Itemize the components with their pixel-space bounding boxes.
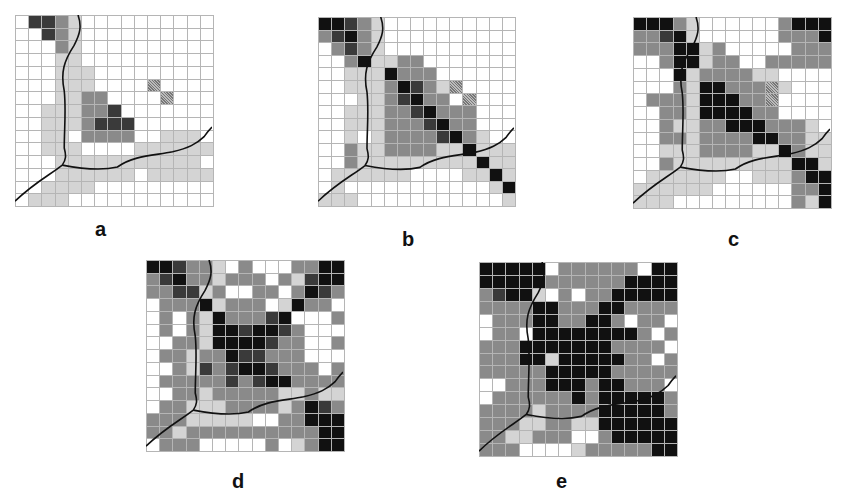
grid-cell	[122, 16, 134, 28]
grid-cell	[506, 366, 518, 378]
grid-cell	[226, 363, 238, 375]
grid-cell	[201, 169, 213, 181]
grid-cell	[819, 18, 831, 30]
grid-cell	[647, 43, 659, 55]
grid-cell	[726, 43, 738, 55]
grid-cell	[674, 120, 686, 132]
grid-cell	[520, 276, 532, 288]
grid-cell	[82, 131, 94, 143]
grid-cell	[665, 302, 677, 314]
grid-cell	[726, 107, 738, 119]
grid-cell	[660, 184, 672, 196]
grid-cell	[187, 414, 199, 426]
grid-cell	[42, 194, 54, 206]
grid-cell	[740, 133, 752, 145]
grid-cell	[135, 131, 147, 143]
grid-cell	[493, 354, 505, 366]
grid-cell	[372, 194, 384, 206]
grid-cell	[713, 133, 725, 145]
grid-cell	[160, 401, 172, 413]
grid-cell	[792, 184, 804, 196]
grid-cell	[665, 276, 677, 288]
grid-cell	[332, 68, 344, 80]
grid-cell	[42, 131, 54, 143]
grid-cell	[213, 376, 225, 388]
grid-cell	[188, 67, 200, 79]
grid-cell	[559, 315, 571, 327]
grid-cell	[173, 388, 185, 400]
grid-cell	[147, 401, 159, 413]
grid-cell	[779, 82, 791, 94]
grid-cell	[726, 158, 738, 170]
grid-cell	[56, 182, 68, 194]
grid-cell	[490, 194, 502, 206]
grid-cell	[572, 354, 584, 366]
grid-cell	[147, 376, 159, 388]
grid-cell	[372, 81, 384, 93]
grid-cell	[700, 18, 712, 30]
grid-cell	[332, 43, 344, 55]
grid-cell	[239, 427, 251, 439]
grid-cell	[213, 325, 225, 337]
grid-cell	[665, 444, 677, 456]
grid-cell	[42, 16, 54, 28]
grid-cell	[95, 143, 107, 155]
grid-cell	[638, 341, 650, 353]
grid-cell	[148, 16, 160, 28]
grid-cell	[450, 144, 462, 156]
grid-cell	[477, 68, 489, 80]
grid-cell	[634, 18, 646, 30]
grid-cell	[200, 427, 212, 439]
grid-cell	[292, 414, 304, 426]
grid-cell	[226, 376, 238, 388]
grid-cell	[634, 196, 646, 208]
grid-cell	[161, 41, 173, 53]
grid-cell	[345, 56, 357, 68]
grid-cell	[173, 427, 185, 439]
grid-cell	[226, 274, 238, 286]
grid-cell	[477, 157, 489, 169]
grid-cell	[56, 41, 68, 53]
grid-cell	[674, 56, 686, 68]
grid-cell	[372, 31, 384, 43]
grid-cell	[437, 81, 449, 93]
grid-cell	[319, 94, 331, 106]
grid-cell	[612, 418, 624, 430]
grid-cell	[625, 444, 637, 456]
grid-panel-d	[146, 260, 345, 452]
grid-cell	[520, 315, 532, 327]
grid-cell	[82, 156, 94, 168]
panel-label-a: a	[95, 218, 106, 241]
grid-cell	[173, 299, 185, 311]
grid-cell	[29, 118, 41, 130]
grid-cell	[806, 158, 818, 170]
grid-cell	[213, 261, 225, 273]
grid-cell	[674, 82, 686, 94]
grid-cell	[147, 350, 159, 362]
grid-cell	[766, 82, 778, 94]
grid-cell	[687, 43, 699, 55]
grid-cell	[372, 182, 384, 194]
grid-cell	[135, 143, 147, 155]
grid-cell	[700, 171, 712, 183]
grid-cell	[29, 169, 41, 181]
grid-cell	[305, 286, 317, 298]
grid-cell	[792, 56, 804, 68]
grid-cell	[358, 94, 370, 106]
grid-cell	[559, 341, 571, 353]
grid-cell	[279, 350, 291, 362]
grid-cell	[279, 286, 291, 298]
grid-cell	[638, 328, 650, 340]
grid-cell	[819, 120, 831, 132]
grid-cell	[148, 41, 160, 53]
grid-cell	[305, 350, 317, 362]
grid-cell	[253, 376, 265, 388]
grid-cell	[638, 263, 650, 275]
grid-cell	[652, 444, 664, 456]
grid-cell	[135, 54, 147, 66]
grid-cell	[740, 196, 752, 208]
grid-cell	[586, 315, 598, 327]
grid-cell	[42, 118, 54, 130]
grid-cell	[332, 388, 344, 400]
grid-cell	[358, 18, 370, 30]
